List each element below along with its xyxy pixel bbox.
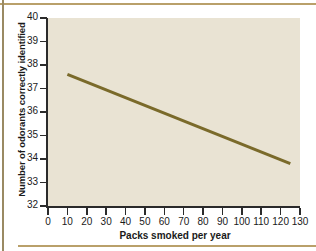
page-rule-left <box>2 0 4 251</box>
x-axis-title: Packs smoked per year <box>44 230 306 241</box>
x-tick-mark <box>202 208 204 215</box>
y-axis-title: Number of odorants correctly identified <box>16 5 27 215</box>
y-tick-mark <box>40 64 47 66</box>
x-tick-mark <box>299 208 301 215</box>
x-tick-mark <box>183 208 185 215</box>
y-tick-mark <box>40 111 47 113</box>
x-tick-mark <box>164 208 166 215</box>
y-tick-mark <box>40 41 47 43</box>
trend-line-layer <box>48 18 300 206</box>
x-tick-mark <box>86 208 88 215</box>
y-tick-mark <box>40 17 47 19</box>
page-rule-bottom <box>18 245 316 247</box>
x-tick-mark <box>222 208 224 215</box>
x-tick-mark <box>144 208 146 215</box>
page-rule-top <box>0 3 316 5</box>
y-tick-mark <box>40 205 47 207</box>
x-tick-mark <box>280 208 282 215</box>
y-axis-spine <box>46 18 48 208</box>
x-tick-mark <box>47 208 49 215</box>
x-tick-mark <box>241 208 243 215</box>
x-tick-label: 130 <box>287 216 313 227</box>
regression-line <box>67 74 290 163</box>
y-tick-mark <box>40 88 47 90</box>
x-tick-mark <box>125 208 127 215</box>
x-tick-mark <box>67 208 69 215</box>
y-tick-mark <box>40 135 47 137</box>
x-tick-mark <box>105 208 107 215</box>
y-tick-mark <box>40 182 47 184</box>
x-tick-mark <box>260 208 262 215</box>
y-tick-mark <box>40 158 47 160</box>
chart-figure: 323334353637383940 010203040506070809010… <box>0 0 316 251</box>
